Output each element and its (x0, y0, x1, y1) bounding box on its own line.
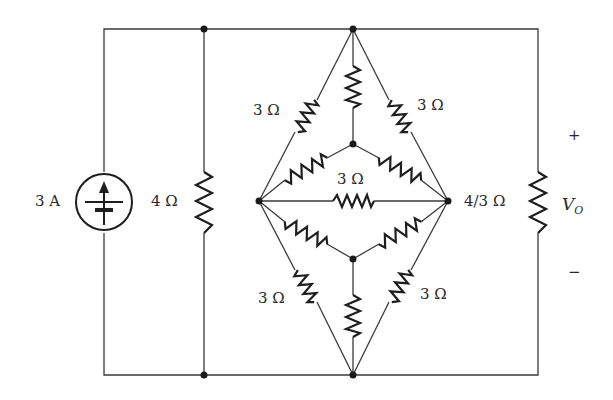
circuit-diagram (0, 0, 613, 400)
resistor-outer-bottom-left (292, 267, 319, 305)
source-label: 3 A (35, 194, 60, 209)
nodes (201, 26, 452, 379)
minus-sign: − (568, 265, 581, 280)
outer-bottom-right-label: 3 Ω (420, 287, 447, 302)
resistor-outer-top-right (386, 97, 413, 135)
resistor-inner-top-right (376, 152, 424, 185)
resistor-outer-bottom-right (386, 267, 413, 305)
resistor-load (530, 172, 546, 233)
outer-top-right-label: 3 Ω (417, 98, 444, 113)
resistor-center-horizontal (333, 195, 374, 207)
center-resistor-label: 3 Ω (337, 172, 364, 187)
outer-bottom-left-label: 3 Ω (258, 291, 285, 306)
current-source (76, 174, 132, 230)
plus-sign: + (568, 128, 581, 143)
shunt-resistor-label: 4 Ω (151, 194, 178, 209)
resistor-center-bottom (346, 295, 360, 337)
output-voltage-label: VO (562, 196, 583, 216)
vo-subscript: O (574, 204, 583, 217)
resistor-center-top (346, 66, 360, 108)
resistor-outer-top-left (292, 97, 319, 135)
vo-symbol: V (562, 194, 574, 214)
resistor-inner-bottom-right (376, 216, 424, 249)
outer-top-left-label: 3 Ω (253, 103, 280, 118)
resistor-inner-top-left (282, 152, 330, 185)
resistor-4ohm (196, 172, 212, 233)
load-resistor-label: 4/3 Ω (464, 194, 505, 209)
resistor-inner-bottom-left (282, 216, 330, 249)
